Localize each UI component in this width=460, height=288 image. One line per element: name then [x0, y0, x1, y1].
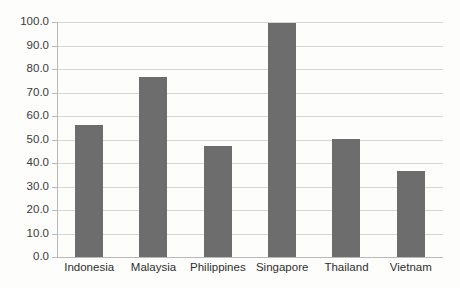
bar [332, 139, 360, 257]
bar [268, 23, 296, 257]
y-tick-label: 80.0 [3, 63, 49, 75]
bar-slot [314, 22, 378, 257]
y-tick-label: 10.0 [3, 228, 49, 240]
y-tick-label: 90.0 [3, 40, 49, 52]
y-tick-mark [52, 257, 57, 258]
gridline [57, 257, 443, 258]
bar-chart: 100.090.080.070.060.050.040.030.020.010.… [0, 0, 460, 288]
y-tick-label: 40.0 [3, 157, 49, 169]
bars-group [57, 22, 443, 257]
y-tick-label: 60.0 [3, 110, 49, 122]
y-tick-label: 100.0 [3, 16, 49, 28]
bar-slot [186, 22, 250, 257]
bar [75, 125, 103, 257]
y-tick-label: 0.0 [3, 251, 49, 263]
bar [204, 146, 232, 257]
bar [139, 77, 167, 257]
plot-area [57, 22, 443, 257]
x-category-label: Vietnam [371, 262, 451, 274]
y-tick-label: 50.0 [3, 134, 49, 146]
bar-slot [57, 22, 121, 257]
bar-slot [121, 22, 185, 257]
bar-slot [379, 22, 443, 257]
y-tick-label: 30.0 [3, 181, 49, 193]
bar-slot [250, 22, 314, 257]
y-tick-label: 70.0 [3, 87, 49, 99]
y-tick-label: 20.0 [3, 204, 49, 216]
bar [397, 171, 425, 257]
